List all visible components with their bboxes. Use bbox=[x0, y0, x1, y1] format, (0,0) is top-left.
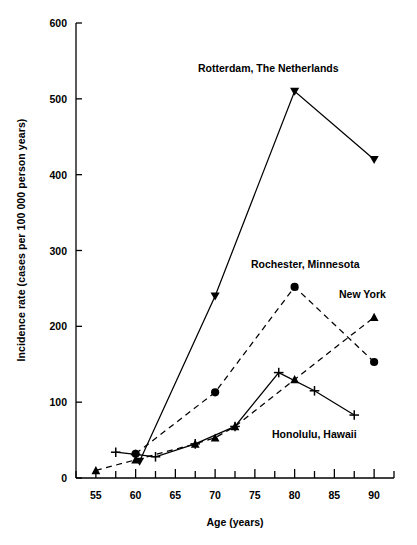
chart-figure: Incidence rate (cases per 100 000 person… bbox=[0, 0, 417, 545]
x-tick-label: 60 bbox=[130, 489, 142, 501]
y-tick-labels: 0100200300400500600 bbox=[49, 17, 67, 484]
x-tick-label: 55 bbox=[90, 489, 102, 501]
y-tick-label: 600 bbox=[49, 17, 67, 29]
x-tick-label: 65 bbox=[170, 489, 182, 501]
x-tick-label: 75 bbox=[249, 489, 261, 501]
x-axis-title: Age (years) bbox=[140, 516, 330, 528]
series-3 bbox=[111, 368, 359, 462]
data-series bbox=[91, 88, 378, 475]
x-tick-label: 90 bbox=[368, 489, 380, 501]
y-tick-label: 200 bbox=[49, 320, 67, 332]
series-0 bbox=[135, 88, 379, 466]
y-tick-label: 0 bbox=[61, 472, 67, 484]
y-tick-label: 500 bbox=[49, 93, 67, 105]
series-label-rochester: Rochester, Minnesota bbox=[251, 258, 360, 270]
series-label-honolulu: Honolulu, Hawaii bbox=[272, 428, 357, 440]
series-label-new-york: New York bbox=[339, 288, 386, 300]
x-tick-label: 70 bbox=[209, 489, 221, 501]
x-tick-label: 80 bbox=[289, 489, 301, 501]
y-tick-label: 300 bbox=[49, 245, 67, 257]
y-tick-label: 400 bbox=[49, 169, 67, 181]
x-tick-labels: 5560657075808590 bbox=[90, 489, 380, 501]
y-tick-label: 100 bbox=[49, 396, 67, 408]
series-label-rotterdam: Rotterdam, The Netherlands bbox=[198, 62, 339, 74]
plot-area: 0100200300400500600 5560657075808590 bbox=[0, 0, 417, 545]
x-tick-label: 85 bbox=[329, 489, 341, 501]
